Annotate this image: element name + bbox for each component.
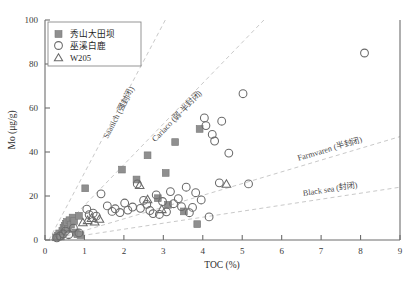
y-tick-label: 80: [29, 59, 39, 69]
data-point-circle: [211, 137, 219, 145]
x-tick-label: 2: [122, 246, 127, 256]
legend-label-2: W205: [70, 53, 91, 63]
data-point-square: [82, 185, 89, 192]
data-point-circle: [225, 149, 233, 157]
data-point-circle: [215, 179, 223, 187]
data-point-square: [144, 152, 151, 159]
data-point-square: [194, 221, 201, 228]
x-tick-label: 3: [161, 246, 166, 256]
data-point-circle: [197, 196, 205, 204]
data-point-square: [119, 166, 126, 173]
scatter-chart: 020406080100 0123456789 TOC (%) Mo (μg/g…: [0, 0, 415, 282]
data-point-circle: [245, 180, 253, 188]
legend-label-0: 秀山大田坝: [70, 28, 115, 39]
trendline-label: Farmvaren (半封闭): [296, 134, 363, 163]
x-tick-label: 8: [358, 246, 363, 256]
y-tick-label: 60: [29, 103, 39, 113]
data-point-circle: [218, 117, 226, 125]
data-point-circle: [239, 90, 247, 98]
x-tick-label: 6: [279, 246, 284, 256]
data-point-circle: [200, 114, 208, 122]
y-ticks-group: 020406080100: [25, 15, 51, 245]
chart-canvas: 020406080100 0123456789 TOC (%) Mo (μg/g…: [0, 0, 415, 282]
x-ticks-group: 0123456789: [43, 235, 403, 256]
y-tick-label: 40: [29, 147, 39, 157]
y-axis-title: Mo (μg/g): [7, 110, 18, 149]
x-tick-label: 9: [398, 246, 403, 256]
legend-label-1: 巫溪白鹿: [70, 40, 106, 51]
data-point-circle: [167, 188, 175, 196]
y-tick-label: 100: [25, 15, 39, 25]
data-point-circle: [97, 190, 105, 198]
data-points-group: [53, 49, 369, 242]
x-tick-label: 0: [43, 246, 48, 256]
y-tick-label: 20: [29, 191, 39, 201]
data-point-circle: [361, 49, 369, 57]
data-point-square: [162, 170, 169, 177]
data-point-circle: [192, 189, 200, 197]
data-point-circle: [174, 195, 182, 203]
y-tick-label: 0: [34, 235, 39, 245]
data-point-square: [76, 212, 83, 219]
legend: 秀山大田坝 巫溪白鹿 W205: [48, 22, 141, 66]
trendline-label: Black sea (封闭): [302, 180, 358, 198]
x-tick-label: 5: [240, 246, 245, 256]
data-point-circle: [182, 183, 190, 191]
x-tick-label: 1: [82, 246, 87, 256]
legend-marker-filled-square: [55, 31, 62, 38]
x-tick-label: 4: [201, 246, 206, 256]
x-tick-label: 7: [319, 246, 324, 256]
x-axis-title: TOC (%): [204, 260, 239, 271]
data-point-square: [172, 139, 179, 146]
trendline-label: Saanich (强封闭): [101, 84, 137, 140]
trendline-label: Cariaco (弱-半封闭): [149, 88, 203, 144]
